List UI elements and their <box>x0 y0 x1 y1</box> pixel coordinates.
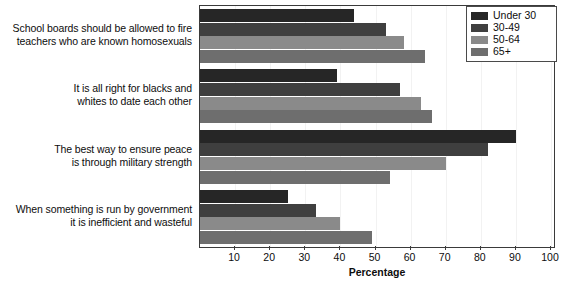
legend-swatch <box>471 12 488 20</box>
gridline <box>411 6 412 247</box>
category-label-line: is through military strength <box>2 156 192 169</box>
category-label: School boards should be allowed to firet… <box>2 22 192 48</box>
legend-item: 65+ <box>471 46 552 57</box>
x-axis-tick <box>550 246 551 250</box>
bar <box>200 97 421 110</box>
bar <box>200 217 340 230</box>
bar-chart: School boards should be allowed to firet… <box>0 0 570 282</box>
legend-label: 65+ <box>493 46 511 57</box>
legend: Under 3030-4950-6465+ <box>466 6 557 62</box>
x-axis-tick-label: 60 <box>395 251 425 263</box>
x-axis-tick-label: 10 <box>219 251 249 263</box>
x-axis: Percentage 102030405060708090100 <box>199 246 555 282</box>
legend-swatch <box>471 36 488 44</box>
x-axis-tick <box>515 246 516 250</box>
category-axis-labels: School boards should be allowed to firet… <box>0 0 197 246</box>
bar <box>200 143 488 156</box>
category-label: It is all right for blacks andwhites to … <box>2 82 192 108</box>
legend-item: Under 30 <box>471 10 552 21</box>
x-axis-tick <box>480 246 481 250</box>
x-axis-tick <box>445 246 446 250</box>
x-axis-tick-label: 90 <box>500 251 530 263</box>
category-label-line: whites to date each other <box>2 95 192 108</box>
bar <box>200 23 386 36</box>
legend-label: Under 30 <box>493 10 536 21</box>
gridline <box>446 6 447 247</box>
x-axis-tick-label: 70 <box>430 251 460 263</box>
category-label-line: School boards should be allowed to fire <box>2 22 192 35</box>
category-label: The best way to ensure peaceis through m… <box>2 143 192 169</box>
category-label-line: it is inefficient and wasteful <box>2 216 192 229</box>
bar <box>200 171 390 184</box>
x-axis-tick-label: 20 <box>254 251 284 263</box>
legend-label: 50-64 <box>493 34 520 45</box>
bar <box>200 83 400 96</box>
x-axis-tick <box>234 246 235 250</box>
category-label: When something is run by governmentit is… <box>2 203 192 229</box>
x-axis-tick-label: 40 <box>324 251 354 263</box>
x-axis-tick-label: 30 <box>289 251 319 263</box>
bar <box>200 231 372 244</box>
x-axis-tick-label: 100 <box>535 251 565 263</box>
bar <box>200 50 425 63</box>
legend-swatch <box>471 24 488 32</box>
legend-label: 30-49 <box>493 22 520 33</box>
bar <box>200 190 288 203</box>
x-axis-tick <box>269 246 270 250</box>
bar <box>200 204 316 217</box>
x-axis-tick <box>375 246 376 250</box>
bar <box>200 110 432 123</box>
bar <box>200 69 337 82</box>
bar <box>200 130 516 143</box>
bar <box>200 157 446 170</box>
legend-item: 50-64 <box>471 34 552 45</box>
category-label-line: It is all right for blacks and <box>2 82 192 95</box>
legend-swatch <box>471 48 488 56</box>
x-axis-tick <box>339 246 340 250</box>
legend-item: 30-49 <box>471 22 552 33</box>
category-label-line: When something is run by government <box>2 203 192 216</box>
x-axis-tick-label: 80 <box>465 251 495 263</box>
category-label-line: teachers who are known homosexuals <box>2 35 192 48</box>
bar <box>200 9 354 22</box>
x-axis-tick-label: 50 <box>360 251 390 263</box>
x-axis-title: Percentage <box>199 266 555 278</box>
x-axis-tick <box>410 246 411 250</box>
bar <box>200 36 404 49</box>
x-axis-tick <box>304 246 305 250</box>
category-label-line: The best way to ensure peace <box>2 143 192 156</box>
